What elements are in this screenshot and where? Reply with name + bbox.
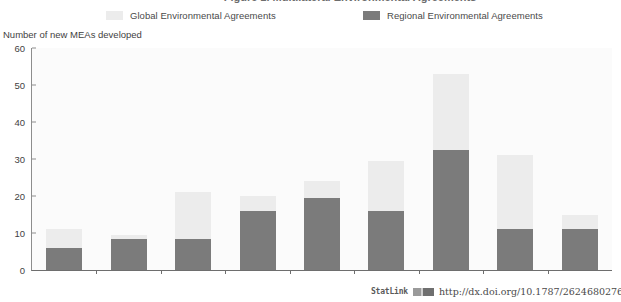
legend-label-global: Global Environmental Agreements	[130, 10, 276, 21]
x-axis-tick-mark	[354, 270, 355, 274]
bar-segment-regional[interactable]	[46, 248, 82, 270]
y-axis-tick-label: 60	[0, 43, 32, 54]
bar-segment-regional[interactable]	[368, 211, 404, 270]
legend-swatch-icon-global	[106, 11, 123, 20]
x-axis-tick-mark	[548, 270, 549, 274]
x-axis-tick-mark	[96, 270, 97, 274]
y-axis-tick-mark	[32, 122, 36, 123]
chart-legend: Global Environmental Agreements Regional…	[0, 0, 621, 26]
bar-group[interactable]	[111, 235, 147, 270]
bar-segment-regional[interactable]	[497, 229, 533, 270]
statlink-label: StatLink	[371, 287, 408, 296]
bar-group[interactable]	[368, 161, 404, 270]
chart-area: 0102030405060 1960-19641965-19691970-197…	[0, 40, 621, 280]
bar-segment-regional[interactable]	[304, 198, 340, 270]
bar-group[interactable]	[562, 215, 598, 271]
y-axis-tick-mark	[32, 233, 36, 234]
x-axis-tick-mark	[161, 270, 162, 274]
bar-group[interactable]	[433, 74, 469, 270]
bar-group[interactable]	[46, 229, 82, 270]
y-axis-tick-label: 10	[0, 228, 32, 239]
statlink-barcode-icon	[413, 288, 434, 296]
y-axis-tick-label: 20	[0, 191, 32, 202]
y-axis-tick-mark	[32, 85, 36, 86]
y-axis-tick-label: 40	[0, 117, 32, 128]
bar-group[interactable]	[240, 196, 276, 270]
x-axis-tick-mark	[419, 270, 420, 274]
bar-segment-regional[interactable]	[433, 150, 469, 270]
y-axis-tick-label: 0	[0, 265, 32, 276]
x-axis-tick-mark	[290, 270, 291, 274]
x-axis-tick-mark	[225, 270, 226, 274]
bar-segment-regional[interactable]	[562, 229, 598, 270]
legend-label-regional: Regional Environmental Agreements	[387, 10, 543, 21]
legend-item-global[interactable]: Global Environmental Agreements	[106, 10, 276, 21]
bar-group[interactable]	[497, 155, 533, 270]
y-axis-tick-label: 30	[0, 154, 32, 165]
bar-group[interactable]	[175, 192, 211, 270]
statlink-url[interactable]: http://dx.doi.org/10.1787/262468027636	[439, 286, 621, 297]
y-axis-tick-mark	[32, 196, 36, 197]
y-axis-tick-mark	[32, 159, 36, 160]
legend-item-regional[interactable]: Regional Environmental Agreements	[363, 10, 543, 21]
statlink[interactable]: StatLink http://dx.doi.org/10.1787/26246…	[371, 286, 621, 297]
y-axis-tick-mark	[32, 48, 36, 49]
plot-area: 0102030405060	[31, 48, 612, 271]
x-axis-tick-mark	[483, 270, 484, 274]
bar-segment-regional[interactable]	[175, 239, 211, 270]
y-axis-title: Number of new MEAs developed	[3, 29, 142, 40]
bar-segment-regional[interactable]	[240, 211, 276, 270]
bar-segment-regional[interactable]	[111, 239, 147, 270]
y-axis-tick-label: 50	[0, 80, 32, 91]
bar-group[interactable]	[304, 181, 340, 270]
legend-swatch-icon-regional	[363, 11, 380, 20]
